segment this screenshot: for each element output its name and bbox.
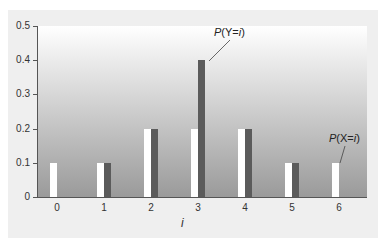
annotation-leader-lines (0, 0, 384, 246)
annotation-p-x: P(X=i) (329, 132, 360, 144)
annotation-p-y: P(Y=i) (214, 26, 245, 38)
